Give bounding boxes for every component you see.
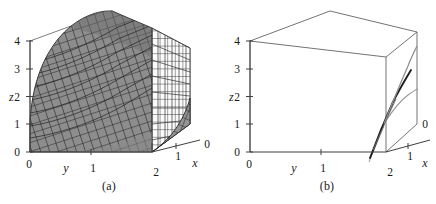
z-tick-3: 3: [234, 63, 240, 75]
x-tick-1: 1: [407, 150, 413, 162]
panel-b-axes: [250, 40, 430, 152]
z-tick-0: 0: [14, 146, 20, 158]
box-top-face: [250, 11, 417, 57]
z-tick-0: 0: [234, 146, 240, 158]
x-tick-0: 0: [204, 138, 210, 150]
panel-b-plot: 0 1 2 3 4 z 0 1 2 y 1 0 x: [218, 0, 436, 204]
x-axis-label: x: [421, 156, 428, 170]
z-axis-label: z: [8, 90, 14, 104]
y-tick-0: 0: [26, 158, 32, 170]
x-axis-label: x: [191, 156, 198, 170]
y-tick-1: 1: [90, 162, 96, 174]
y-tick-2: 2: [153, 166, 159, 178]
z-tick-2: 2: [14, 91, 20, 103]
z-tick-2: 2: [234, 91, 240, 103]
x-tick-0: 0: [422, 118, 428, 130]
space-curves: [369, 46, 418, 162]
y-axis-label: y: [290, 161, 297, 175]
z-tick-1: 1: [14, 118, 20, 130]
z-tick-3: 3: [14, 63, 20, 75]
surface-mesh: [30, 10, 190, 152]
y-tick-1: 1: [320, 162, 326, 174]
curve-branch-short: [385, 89, 418, 122]
z-axis-label: z: [228, 90, 234, 104]
y-tick-2: 2: [387, 166, 393, 178]
panel-b: 0 1 2 3 4 z 0 1 2 y 1 0 x (b): [218, 0, 436, 204]
z-tick-1: 1: [234, 118, 240, 130]
z-tick-4: 4: [14, 35, 20, 47]
z-tick-4: 4: [234, 35, 240, 47]
panel-b-box: [250, 11, 417, 152]
curve-branch-long: [384, 46, 417, 124]
figure-container: 0 1 2 3 4 z 0 1 2 y 1 0 x (a): [0, 0, 436, 204]
panel-a-caption: (a): [0, 179, 218, 194]
panel-b-caption: (b): [218, 179, 436, 194]
panel-a-plot: 0 1 2 3 4 z 0 1 2 y 1 0 x: [0, 0, 218, 204]
curve-companion: [373, 99, 396, 150]
x-tick-1: 1: [175, 150, 181, 162]
y-tick-0: 0: [246, 158, 252, 170]
y-axis-label: y: [62, 161, 69, 175]
panel-a: 0 1 2 3 4 z 0 1 2 y 1 0 x (a): [0, 0, 218, 204]
